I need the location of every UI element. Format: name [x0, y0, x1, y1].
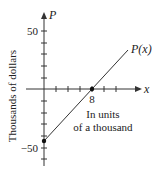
annotation-2: of a thousand [73, 121, 133, 133]
x-tick-8: 8 [89, 93, 95, 105]
y-axis-label: P [48, 8, 57, 22]
chart: Thousands of dollars x P 50 −50 8 P(x) I… [0, 0, 161, 171]
y-side-label: Thousands of dollars [6, 50, 18, 142]
zero-point [90, 87, 94, 91]
x-axis-label: x [143, 82, 150, 96]
series-label: P(x) [130, 42, 152, 56]
y-intercept-point [42, 139, 46, 143]
y-tick-50: 50 [27, 25, 39, 37]
y-tick-neg50: −50 [21, 142, 39, 154]
y-axis-arrow-icon [41, 12, 47, 19]
annotation-1: In units [86, 108, 119, 120]
x-axis-arrow-icon [135, 86, 142, 92]
